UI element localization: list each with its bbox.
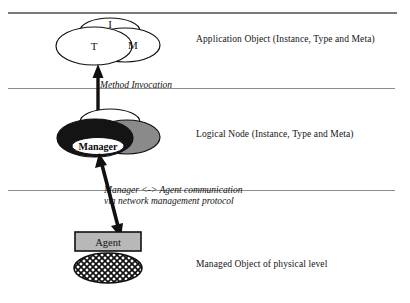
side-label-logical-node: Logical Node (Instance, Type and Meta): [196, 129, 354, 139]
ellipse-label-instance: I: [108, 18, 112, 30]
side-label-application-object: Application Object (Instance, Type and M…: [196, 34, 375, 44]
connector-label-manager-agent-line1: Manager <-> Agent communication: [104, 185, 243, 196]
ellipse-label-type: T: [91, 40, 98, 52]
connector-label-manager-agent: Manager <-> Agent communication via netw…: [104, 185, 243, 207]
agent-label: Agent: [95, 237, 121, 248]
side-label-managed-object: Managed Object of physical level: [196, 259, 327, 269]
manager-label: Manager: [79, 141, 118, 152]
connector-label-method-invocation: Method Invocation: [100, 80, 172, 91]
logical-node-group: Manager: [57, 109, 160, 157]
diagram-canvas: I T M Manager Agent: [0, 0, 410, 303]
ellipse-label-meta: M: [128, 39, 138, 51]
diagram-graphics: I T M Manager Agent: [0, 0, 410, 303]
application-object-group: I T M: [56, 18, 160, 65]
managed-object-ellipse: [74, 253, 142, 283]
agent-box-group: Agent: [75, 232, 141, 251]
connector-label-manager-agent-line2: via network management protocol: [104, 196, 243, 207]
